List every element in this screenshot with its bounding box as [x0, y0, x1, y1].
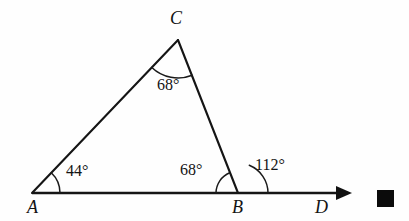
segment-ac: [32, 40, 178, 193]
vertex-label-c: C: [170, 8, 183, 28]
vertex-label-d: D: [314, 197, 328, 217]
qed-square-marker: [377, 190, 394, 207]
angle-label-a: 44°: [66, 162, 88, 179]
geometry-figure: A B C D 44° 68° 68° 112°: [0, 0, 409, 221]
angle-label-c: 68°: [157, 76, 179, 93]
ray-ad: [32, 186, 352, 200]
vertex-label-b: B: [232, 197, 243, 217]
angle-label-b-interior: 68°: [180, 161, 202, 178]
vertex-label-a: A: [26, 197, 39, 217]
angle-arc-b-interior: [216, 173, 230, 193]
angle-label-b-exterior: 112°: [255, 156, 285, 173]
geometry-canvas: A B C D 44° 68° 68° 112°: [0, 0, 409, 221]
angle-arc-a: [51, 173, 60, 193]
arrowhead-icon: [336, 186, 352, 200]
